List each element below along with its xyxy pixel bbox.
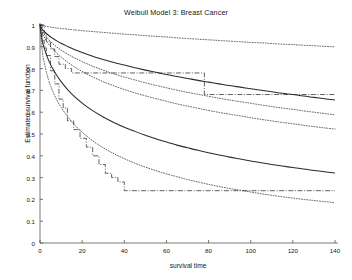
x-tick-label: 0 — [38, 247, 41, 254]
x-tick-label: 20 — [79, 247, 86, 254]
x-tick-label: 80 — [205, 247, 212, 254]
weibull-survival-chart: Weibull Model 3: Breast Cancer Estimated… — [0, 0, 352, 280]
y-tick-label: 0.8 — [8, 65, 35, 72]
x-tick-label: 120 — [288, 247, 298, 254]
y-tick-label: 0 — [8, 240, 35, 247]
x-tick-label: 60 — [163, 247, 170, 254]
y-tick-label: 0.4 — [8, 152, 35, 159]
y-tick-label: 0.3 — [8, 174, 35, 181]
series-line — [40, 25, 335, 95]
plot-area — [0, 0, 352, 280]
y-tick-label: 0.7 — [8, 87, 35, 94]
y-tick-label: 0.5 — [8, 131, 35, 138]
y-tick-label: 0.1 — [8, 218, 35, 225]
series-line — [40, 25, 335, 47]
series-line — [40, 25, 335, 203]
series-line — [40, 25, 335, 173]
y-tick-label: 1 — [8, 22, 35, 29]
y-tick-label: 0.2 — [8, 196, 35, 203]
series-line — [40, 25, 335, 191]
x-tick-label: 100 — [246, 247, 256, 254]
series-line — [40, 25, 335, 129]
y-tick-label: 0.6 — [8, 109, 35, 116]
x-tick-label: 140 — [330, 247, 340, 254]
x-tick-label: 40 — [121, 247, 128, 254]
y-tick-label: 0.9 — [8, 43, 35, 50]
